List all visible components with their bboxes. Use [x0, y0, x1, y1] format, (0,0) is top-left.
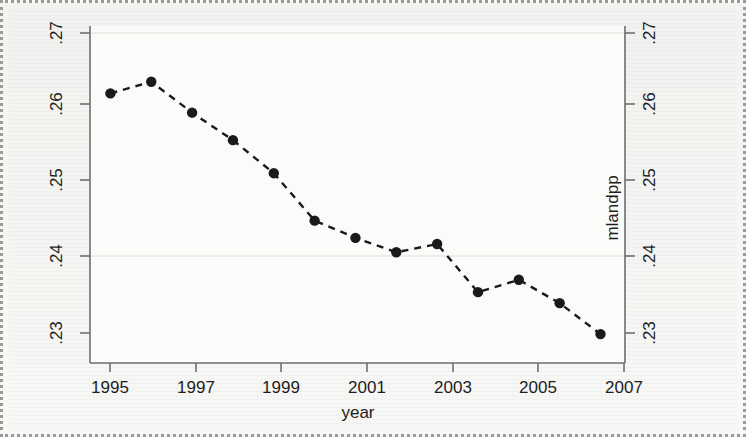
y-tick-label-left-2: .25 — [47, 168, 66, 192]
x-tick-label-6: 2007 — [605, 378, 643, 397]
data-point-marker — [269, 168, 279, 178]
x-tick-label-5: 2005 — [519, 378, 557, 397]
data-point-marker — [595, 329, 605, 339]
data-point-marker — [105, 88, 115, 98]
data-point-marker — [554, 298, 564, 308]
y-tick-label-left-3: .24 — [47, 244, 66, 268]
plot-area-background — [90, 26, 625, 363]
y-axis-title-right: mlandpp — [603, 175, 622, 240]
x-tick-label-1: 1997 — [177, 378, 215, 397]
x-axis-title: year — [341, 403, 374, 422]
y-tick-label-left-4: .23 — [47, 321, 66, 345]
data-point-marker — [187, 107, 197, 117]
x-tick-label-4: 2003 — [434, 378, 472, 397]
x-tick-label-2: 1999 — [262, 378, 300, 397]
x-tick-label-0: 1995 — [91, 378, 129, 397]
y-tick-label-right-2: .25 — [640, 168, 659, 192]
y-tick-label-right-0: .27 — [640, 21, 659, 45]
x-tick-label-3: 2001 — [348, 378, 386, 397]
y-axis-right-tick-labels: .27 .26 .25 .24 .23 — [640, 21, 659, 345]
x-axis-ticks — [110, 363, 624, 372]
data-point-marker — [514, 275, 524, 285]
data-point-marker — [228, 135, 238, 145]
y-axis-left-ticks — [80, 33, 90, 333]
data-point-marker — [432, 239, 442, 249]
data-point-marker — [146, 77, 156, 87]
y-tick-label-right-1: .26 — [640, 92, 659, 116]
chart-figure: .27 .26 .25 .24 .23 .27 .26 .25 .24 .23 … — [10, 8, 736, 429]
y-tick-label-right-4: .23 — [640, 321, 659, 345]
data-point-marker — [309, 215, 319, 225]
data-point-marker — [473, 287, 483, 297]
y-axis-right-ticks — [625, 33, 635, 333]
y-axis-left-tick-labels: .27 .26 .25 .24 .23 — [47, 21, 66, 345]
y-tick-label-left-1: .26 — [47, 92, 66, 116]
line-chart-svg: .27 .26 .25 .24 .23 .27 .26 .25 .24 .23 … — [10, 8, 736, 429]
data-point-marker — [350, 233, 360, 243]
data-point-marker — [391, 247, 401, 257]
y-tick-label-left-0: .27 — [47, 21, 66, 45]
x-axis-tick-labels: 1995 1997 1999 2001 2003 2005 2007 — [91, 378, 643, 397]
y-tick-label-right-3: .24 — [640, 244, 659, 268]
